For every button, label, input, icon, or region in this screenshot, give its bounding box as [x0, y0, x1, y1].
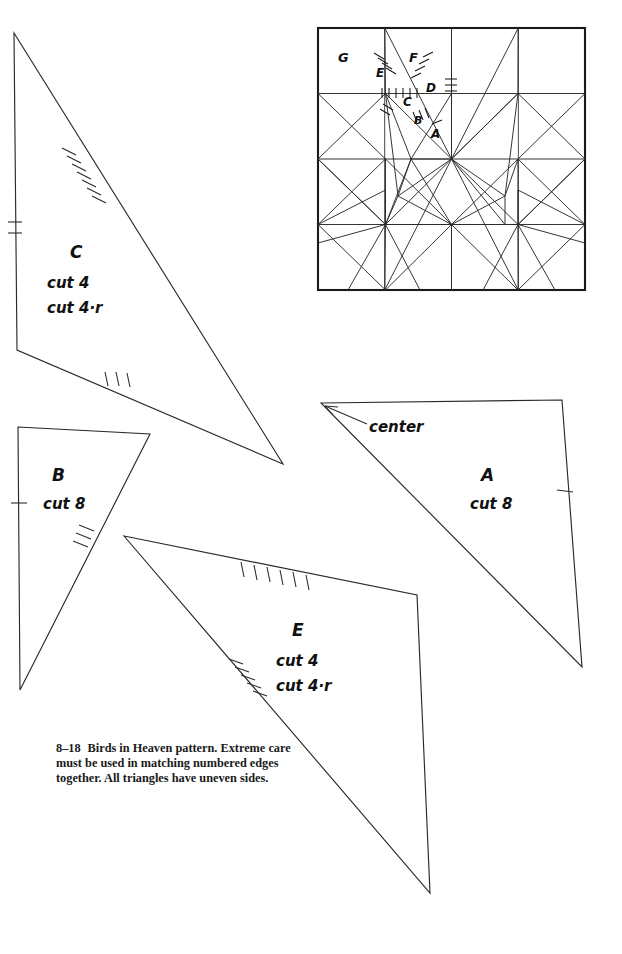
- center-arrow: [325, 406, 367, 424]
- block-label-F: F: [409, 50, 418, 65]
- figure-page: G F E D C B A: [0, 0, 622, 954]
- piece-b-cut-1: cut 8: [43, 495, 85, 513]
- piece-b-label: B: [52, 465, 65, 485]
- piece-a-ticks: [557, 490, 573, 492]
- piece-e-label: E: [292, 620, 304, 640]
- piece-e: E cut 4 cut 4·r: [124, 536, 430, 893]
- piece-a-outline: [321, 400, 582, 667]
- piece-c-ticks: [8, 148, 130, 387]
- figure-number: 8–18: [56, 741, 81, 755]
- block-label-B: B: [414, 114, 422, 127]
- piece-a-label: A: [479, 465, 494, 485]
- block-label-A: A: [430, 127, 440, 141]
- piece-a: center A cut 8: [321, 400, 582, 667]
- tick-group-D: [445, 79, 457, 91]
- block-diagram: [318, 28, 585, 290]
- piece-c-outline: [14, 33, 283, 464]
- pattern-artwork: G F E D C B A: [0, 0, 622, 954]
- block-label-C: C: [403, 95, 412, 109]
- piece-c-cut-1: cut 4: [47, 274, 89, 292]
- center-annotation-label: center: [369, 418, 425, 436]
- piece-a-cut-1: cut 8: [470, 495, 512, 513]
- piece-b-outline: [18, 427, 150, 690]
- piece-e-cut-1: cut 4: [276, 652, 318, 670]
- block-label-D: D: [426, 81, 436, 95]
- piece-c-label: C: [70, 242, 83, 262]
- block-label-E: E: [376, 66, 385, 80]
- piece-e-cut-2: cut 4·r: [276, 677, 333, 695]
- figure-caption: 8–18Birds in Heaven pattern. Extreme car…: [56, 741, 292, 787]
- piece-c: C cut 4 cut 4·r: [8, 33, 283, 464]
- piece-b: B cut 8: [11, 427, 150, 690]
- piece-c-cut-2: cut 4·r: [47, 299, 104, 317]
- figure-caption-title: Birds in Heaven pattern.: [88, 741, 218, 755]
- piece-e-outline: [124, 536, 430, 893]
- block-label-G: G: [338, 50, 349, 65]
